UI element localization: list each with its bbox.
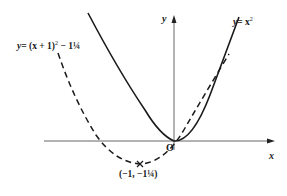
- x-axis-arrow-icon: [267, 139, 275, 144]
- basic-eq-part: = x: [237, 17, 250, 27]
- basic-equation-label: y= x2: [233, 18, 253, 28]
- origin-label: O: [166, 143, 174, 153]
- shifted-eq-part-a: = (x + 1): [21, 41, 55, 51]
- parabola-basic: [88, 13, 239, 141]
- graph-canvas: [0, 0, 287, 196]
- vertex-coordinate-label: (−1, −1¼): [119, 170, 158, 180]
- shifted-equation-label: y= (x + 1)2 − 1¼: [17, 42, 80, 52]
- basic-eq-exponent: 2: [250, 16, 253, 22]
- y-axis-label: y: [162, 14, 166, 24]
- y-axis-arrow-icon: [172, 15, 177, 23]
- x-axis-label: x: [269, 151, 274, 161]
- shifted-eq-part-b: − 1¼: [58, 41, 80, 51]
